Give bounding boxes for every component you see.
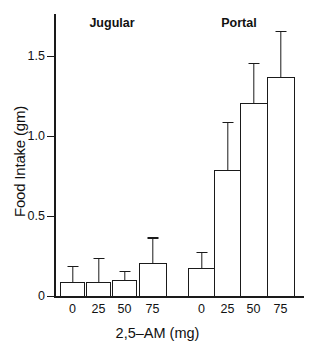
x-axis-tick-label: 75: [146, 302, 160, 316]
group-label-jugular: Jugular: [89, 16, 134, 30]
y-axis-tick-label: 1.0: [5, 129, 45, 143]
error-bar-cap: [196, 252, 207, 253]
x-axis-tick-label: 50: [118, 302, 132, 316]
group-label-portal: Portal: [221, 16, 256, 30]
bar-portal-25: [214, 170, 242, 296]
bar-jugular-25: [86, 282, 111, 296]
error-bar-cap: [93, 258, 104, 259]
x-axis-tick-label: 25: [221, 302, 235, 316]
error-bar-stem: [280, 31, 281, 77]
y-axis-tick-label: 0.5: [5, 209, 45, 223]
bar-jugular-0: [60, 282, 85, 296]
x-axis-tick-label: 75: [274, 302, 288, 316]
error-bar-stem: [227, 122, 228, 170]
error-bar-cap: [248, 63, 259, 64]
error-bar-stem: [98, 258, 99, 282]
error-bar-cap: [222, 122, 233, 123]
y-axis-tick-label: 1.5: [5, 49, 45, 63]
bar-jugular-50: [112, 280, 137, 296]
bar-jugular-75: [139, 263, 167, 297]
error-bar-stem: [201, 252, 202, 268]
chart-figure: Food Intake (gm) 00.51.01.5 JugularPorta…: [0, 0, 315, 352]
error-bar-cap: [119, 271, 130, 272]
x-axis-line: [54, 296, 304, 298]
error-bar-cap: [147, 237, 158, 238]
y-axis-tick-label: 0: [5, 289, 45, 303]
error-bar-stem: [152, 237, 153, 263]
x-axis-tick-label: 50: [247, 302, 261, 316]
x-axis-tick-label: 0: [69, 302, 76, 316]
y-axis-tick: [47, 296, 55, 298]
error-bar-stem: [253, 63, 254, 103]
y-axis-tick: [47, 216, 55, 218]
bar-portal-75: [267, 77, 295, 296]
y-axis-tick: [47, 56, 55, 58]
error-bar-cap: [275, 31, 286, 32]
x-axis-tick-label: 25: [92, 302, 106, 316]
x-axis-tick-label: 0: [198, 302, 205, 316]
y-axis-tick: [47, 136, 55, 138]
bar-portal-50: [240, 103, 268, 297]
error-bar-cap: [67, 266, 78, 267]
x-axis-title: 2,5–AM (mg): [0, 325, 315, 341]
bar-portal-0: [188, 268, 216, 297]
error-bar-stem: [72, 266, 73, 282]
error-bar-stem: [124, 271, 125, 281]
